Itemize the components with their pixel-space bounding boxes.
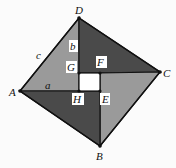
segment-label-b: b: [70, 40, 76, 52]
label-f: F: [96, 56, 104, 68]
point-f-dot: [98, 71, 101, 74]
diagram-canvas: D A C B G F H E c b a: [0, 0, 176, 168]
center-square-efgh: [79, 73, 100, 91]
label-a: A: [8, 86, 16, 98]
segment-label-a: a: [45, 79, 51, 91]
label-d: D: [74, 4, 83, 16]
label-g: G: [67, 61, 75, 73]
point-c-dot: [158, 70, 162, 74]
pythagorean-square-figure: D A C B G F H E c b a: [0, 0, 176, 168]
point-b-dot: [98, 144, 102, 148]
segment-label-c: c: [36, 49, 41, 61]
label-e: E: [101, 93, 109, 105]
point-g-dot: [77, 71, 80, 74]
label-b-vertex: B: [96, 150, 103, 162]
label-h: H: [72, 93, 82, 105]
point-a-dot: [18, 89, 22, 93]
point-d-dot: [77, 16, 81, 20]
label-c: C: [163, 67, 171, 79]
